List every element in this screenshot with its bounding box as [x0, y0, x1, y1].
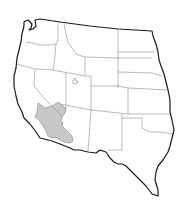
map-container — [0, 0, 185, 203]
western-us-map — [0, 0, 185, 203]
